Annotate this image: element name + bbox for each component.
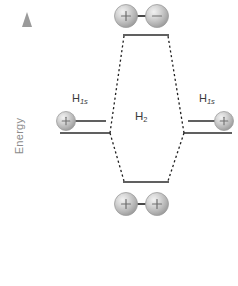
connector-left-to-antibonding xyxy=(110,36,124,133)
energy-axis-label: Energy xyxy=(13,101,25,171)
connector-right-to-bonding xyxy=(168,133,184,181)
atomic-orbital-left-graphic xyxy=(57,112,76,131)
up-arrow-icon xyxy=(22,12,32,27)
mo-energy-diagram: Energy H1s H1s H2 xyxy=(0,0,238,286)
atomic-orbital-label-right: H1s xyxy=(199,92,215,104)
energy-levels xyxy=(60,35,232,182)
atomic-orbital-right-graphic xyxy=(215,112,234,131)
bonding-orbital-graphic xyxy=(115,193,169,216)
atomic-label-right-subscript: 1s xyxy=(207,97,215,106)
atomic-orbital-label-left: H1s xyxy=(72,92,88,104)
correlation-connectors xyxy=(110,36,184,181)
atomic-label-right-element: H xyxy=(199,92,207,104)
atomic-label-left-subscript: 1s xyxy=(80,97,88,106)
molecular-orbital-label: H2 xyxy=(135,110,147,122)
connector-left-to-bonding xyxy=(110,133,124,181)
atomic-label-left-element: H xyxy=(72,92,80,104)
connector-right-to-antibonding xyxy=(168,36,184,133)
molecular-label-subscript: 2 xyxy=(143,115,147,124)
diagram-canvas xyxy=(0,0,238,286)
antibonding-orbital-graphic xyxy=(115,5,169,28)
